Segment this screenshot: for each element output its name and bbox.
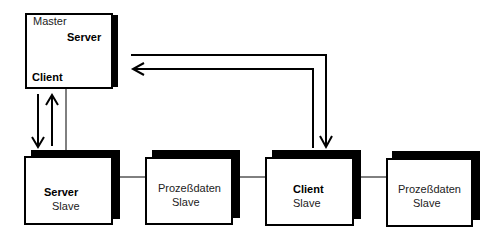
prozessdaten-slave-2-type: Slave bbox=[413, 197, 441, 209]
master-client-label: Client bbox=[32, 71, 63, 83]
client-slave-role: Client bbox=[293, 183, 324, 195]
prozessdaten-slave-2-node[interactable]: Prozeßdaten Slave bbox=[386, 151, 482, 228]
client-slave-type: Slave bbox=[293, 197, 321, 209]
arrow-down-master-to-server-slave bbox=[32, 94, 44, 147]
server-slave-role: Server bbox=[44, 186, 78, 198]
server-slave-node[interactable]: Server Slave bbox=[24, 150, 120, 226]
master-title: Master bbox=[33, 15, 67, 27]
arrow-client-slave-to-master bbox=[133, 63, 313, 148]
client-slave-node[interactable]: Client Slave bbox=[265, 150, 362, 227]
master-server-label: Server bbox=[67, 31, 101, 43]
prozessdaten-slave-1-node[interactable]: Prozeßdaten Slave bbox=[145, 150, 241, 226]
prozessdaten-slave-1-role: Prozeßdaten bbox=[158, 182, 221, 194]
prozessdaten-slave-1-type: Slave bbox=[172, 196, 200, 208]
arrow-up-server-slave-to-master bbox=[46, 95, 58, 146]
prozessdaten-slave-2-role: Prozeßdaten bbox=[398, 183, 461, 195]
master-node[interactable]: Master Server Client bbox=[25, 13, 121, 91]
diagram-canvas: Master Server Client Server Slave Prozeß… bbox=[0, 0, 504, 241]
server-slave-type: Slave bbox=[52, 200, 80, 212]
